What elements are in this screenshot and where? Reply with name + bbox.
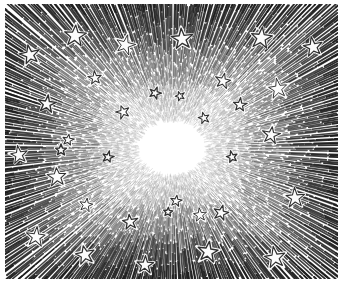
artwork-frame: Starburst [0,0,343,291]
starburst-illustration [0,0,343,291]
